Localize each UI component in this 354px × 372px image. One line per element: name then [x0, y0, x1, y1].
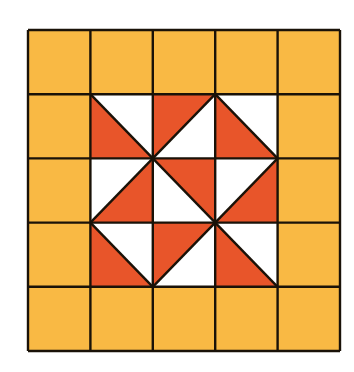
border-square — [153, 287, 215, 351]
border-square — [278, 158, 340, 222]
border-square — [28, 30, 90, 94]
border-square — [28, 94, 90, 158]
border-square — [90, 287, 152, 351]
border-square — [278, 94, 340, 158]
border-square — [278, 223, 340, 287]
border-square — [278, 287, 340, 351]
border-square — [28, 223, 90, 287]
border-square — [90, 30, 152, 94]
border-square — [28, 287, 90, 351]
border-square — [153, 30, 215, 94]
border-square — [215, 30, 277, 94]
quilt-grid-diagram — [0, 0, 354, 372]
border-square — [215, 287, 277, 351]
border-square — [278, 30, 340, 94]
border-square — [28, 158, 90, 222]
